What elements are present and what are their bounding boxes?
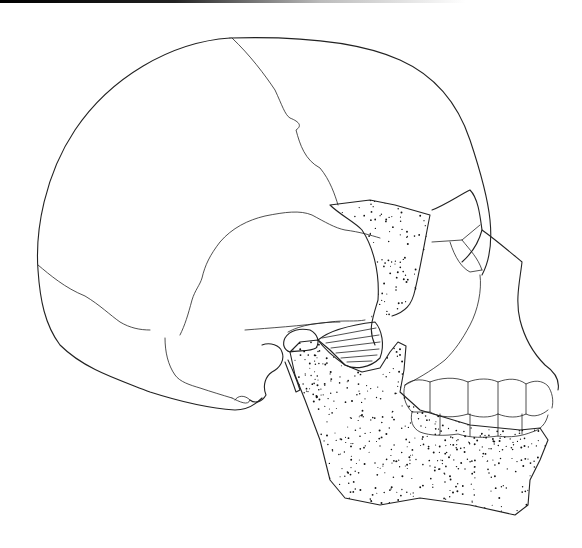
maxilla-lower — [405, 275, 481, 385]
orbit-outline — [432, 190, 482, 262]
skull-illustration — [0, 0, 582, 548]
mastoid-process — [250, 344, 283, 402]
coronal-suture — [232, 38, 338, 205]
orbit-inner — [432, 225, 482, 272]
occipital-condyle — [232, 396, 250, 403]
zygomatic-process — [245, 320, 365, 330]
mandible-stipple — [284, 335, 556, 521]
nasal-maxilla — [482, 230, 558, 390]
temporal-squama — [180, 212, 380, 335]
temporal-lower-border — [165, 338, 232, 398]
lambdoid-suture — [38, 265, 150, 330]
cranium-outline — [37, 38, 262, 410]
lower-teeth — [411, 412, 548, 437]
zygomatic-arch-outline — [330, 200, 430, 345]
vault-top — [230, 38, 491, 275]
mandible-outline — [290, 340, 548, 515]
upper-teeth — [404, 378, 553, 417]
